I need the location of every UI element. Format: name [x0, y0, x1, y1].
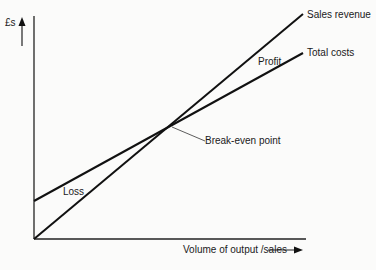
y-axis-label: £s	[5, 17, 16, 29]
x-axis-arrow-icon	[294, 247, 303, 254]
x-axis-label: Volume of output /sales	[183, 244, 287, 256]
chart-canvas	[0, 0, 376, 270]
y-axis-arrow-icon	[19, 17, 26, 26]
total-costs-label: Total costs	[307, 47, 354, 59]
total-costs-line	[34, 53, 303, 201]
profit-label: Profit	[258, 56, 281, 68]
break-even-pointer	[172, 127, 205, 141]
sales-revenue-label: Sales revenue	[307, 9, 371, 21]
loss-label: Loss	[63, 186, 84, 198]
break-even-chart: £s Sales revenue Total costs Profit Brea…	[0, 0, 376, 270]
break-even-label: Break-even point	[205, 135, 281, 147]
